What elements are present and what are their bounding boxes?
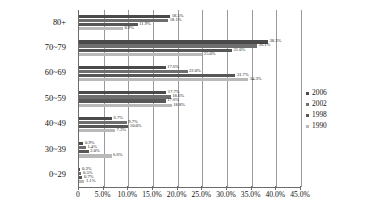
bar-group-bars: 18.5%18.1%11.9%8.9% [79, 10, 300, 35]
bar [79, 74, 235, 77]
legend-label: 1990 [312, 122, 327, 129]
x-tick-mark [78, 186, 79, 190]
legend-item[interactable]: 1990 [306, 121, 366, 131]
bar [79, 180, 84, 183]
legend-swatch-icon [306, 125, 309, 128]
bar [79, 176, 82, 179]
bar [79, 44, 257, 47]
bar [79, 99, 166, 102]
x-tick-mark [177, 186, 178, 190]
bar-chart: 18.5%18.1%11.9%8.9%38.3%36.1%31.0%25.0%1… [0, 0, 370, 213]
x-tick-label: 5.0% [95, 190, 111, 199]
category-label: 80+ [0, 19, 66, 27]
bar-group-bars: 0.9%1.4%2.0%6.6% [79, 137, 300, 162]
bar [79, 70, 188, 73]
gridline [301, 10, 302, 187]
x-tick-mark [300, 186, 301, 190]
bar [79, 40, 268, 43]
x-tick-label: 35.0% [241, 190, 261, 199]
bar [79, 104, 172, 107]
category-label: 60~69 [0, 69, 66, 77]
x-tick-label: 45.0% [290, 190, 310, 199]
legend-label: 2006 [312, 89, 327, 96]
bar-group-bars: 17.6%22.0%31.7%34.3% [79, 61, 300, 86]
legend-item[interactable]: 2006 [306, 88, 366, 98]
legend: 2006200219981990 [306, 88, 366, 132]
x-tick-mark [251, 186, 252, 190]
bar [79, 95, 171, 98]
bar [79, 53, 202, 56]
bar [79, 117, 112, 120]
bar-group-bars: 17.7%18.6%17.6%18.8% [79, 86, 300, 111]
bar-value-label: 34.3% [250, 77, 262, 82]
x-tick-mark [127, 186, 128, 190]
x-tick-label: 0 [76, 190, 80, 199]
legend-label: 2002 [312, 100, 327, 107]
bar [79, 146, 86, 149]
bar-value-label: 7.3% [117, 128, 127, 133]
bar-group-bars: 6.7%9.7%10.0%7.3% [79, 112, 300, 137]
x-tick-label: 15.0% [142, 190, 162, 199]
bar-value-label: 18.8% [173, 103, 185, 108]
bar [79, 121, 127, 124]
bar [79, 66, 166, 69]
bar-group: 0.9%1.4%2.0%6.6% [79, 137, 300, 162]
bar-group: 17.7%18.6%17.6%18.8% [79, 86, 300, 111]
bar-group: 17.6%22.0%31.7%34.3% [79, 61, 300, 86]
bar [79, 15, 170, 18]
bar-value-label: 6.6% [113, 154, 123, 159]
bar-value-label: 36.1% [259, 44, 271, 49]
bar [79, 19, 168, 22]
bar-value-label: 31.0% [233, 48, 245, 53]
bar-group-bars: 0.3%0.5%0.7%1.1% [79, 163, 300, 188]
legend-swatch-icon [306, 103, 309, 106]
x-tick-mark [152, 186, 153, 190]
bar [79, 27, 123, 30]
bar [79, 154, 112, 157]
bar-value-label: 10.0% [130, 124, 142, 129]
bar-group: 0.3%0.5%0.7%1.1% [79, 163, 300, 188]
value-axis: 05.0%10.0%15.0%20.0%25.0%30.0%35.0%40.0%… [78, 190, 300, 204]
category-label: 50~59 [0, 95, 66, 103]
bar [79, 150, 89, 153]
bar [79, 172, 81, 175]
bar [79, 142, 83, 145]
legend-swatch-icon [306, 114, 309, 117]
x-tick-label: 40.0% [266, 190, 286, 199]
category-label: 70~79 [0, 44, 66, 52]
x-tick-label: 25.0% [192, 190, 212, 199]
bar [79, 91, 166, 94]
bar [79, 168, 80, 171]
legend-item[interactable]: 2002 [306, 99, 366, 109]
legend-swatch-icon [306, 92, 309, 95]
bar-value-label: 8.9% [124, 27, 134, 32]
bar-value-label: 38.3% [269, 40, 281, 45]
x-tick-mark [201, 186, 202, 190]
x-tick-mark [103, 186, 104, 190]
bar-value-label: 1.1% [86, 179, 96, 184]
x-tick-label: 10.0% [118, 190, 138, 199]
bar-value-label: 25.0% [204, 52, 216, 57]
bar-group: 38.3%36.1%31.0%25.0% [79, 35, 300, 60]
legend-label: 1998 [312, 111, 327, 118]
legend-item[interactable]: 1998 [306, 110, 366, 120]
plot-area: 18.5%18.1%11.9%8.9%38.3%36.1%31.0%25.0%1… [78, 10, 300, 188]
bar-group: 6.7%9.7%10.0%7.3% [79, 112, 300, 137]
bar-group: 18.5%18.1%11.9%8.9% [79, 10, 300, 35]
bar-value-label: 11.9% [139, 23, 151, 28]
x-tick-label: 30.0% [216, 190, 236, 199]
category-label: 40~49 [0, 120, 66, 128]
bar [79, 78, 248, 81]
bar-value-label: 18.1% [170, 18, 182, 23]
x-tick-label: 20.0% [167, 190, 187, 199]
bar-rows: 18.5%18.1%11.9%8.9%38.3%36.1%31.0%25.0%1… [79, 10, 300, 187]
x-tick-mark [226, 186, 227, 190]
category-label: 0~29 [0, 171, 66, 179]
x-tick-mark [275, 186, 276, 190]
bar-group-bars: 38.3%36.1%31.0%25.0% [79, 35, 300, 60]
category-label: 30~39 [0, 146, 66, 154]
bar [79, 129, 115, 132]
